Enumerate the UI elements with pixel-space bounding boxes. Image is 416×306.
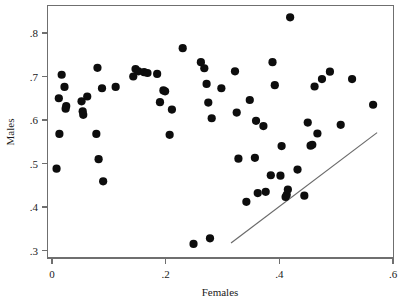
data-point	[278, 142, 286, 150]
data-point	[251, 154, 259, 162]
y-tick-label: .4	[30, 201, 39, 213]
data-point	[60, 83, 68, 91]
data-point	[284, 186, 292, 194]
data-point	[246, 96, 254, 104]
data-point	[369, 101, 377, 109]
data-point	[308, 141, 316, 149]
data-point	[156, 98, 164, 106]
data-point	[98, 84, 106, 92]
y-tick-label: .8	[30, 27, 39, 39]
data-point	[267, 171, 275, 179]
data-point	[271, 81, 279, 89]
x-tick-label: .6	[389, 268, 398, 280]
y-tick-label: .6	[30, 114, 39, 126]
data-point	[348, 75, 356, 83]
data-point	[189, 240, 197, 248]
data-point	[52, 165, 60, 173]
data-point	[262, 188, 270, 196]
data-point	[208, 114, 216, 122]
data-point	[300, 192, 308, 200]
data-points-layer	[52, 13, 377, 248]
data-point	[252, 117, 260, 125]
data-point	[202, 80, 210, 88]
data-point	[92, 130, 100, 138]
data-point	[95, 155, 103, 163]
x-tick-label: .2	[162, 268, 170, 280]
y-axis-tick-labels: .8 .7 .6 .5 .4 .3	[30, 27, 39, 257]
data-point	[231, 67, 239, 75]
x-axis-tick-labels: 0 .2 .4 .6	[49, 268, 397, 280]
data-point	[217, 84, 225, 92]
y-tick-label: .3	[30, 245, 39, 257]
data-point	[234, 155, 242, 163]
y-axis-title: Males	[4, 119, 16, 146]
data-point	[166, 131, 174, 139]
data-point	[259, 122, 267, 130]
data-point	[55, 130, 63, 138]
data-point	[313, 129, 321, 137]
data-point	[62, 102, 70, 110]
data-point	[153, 70, 161, 78]
data-point	[168, 105, 176, 113]
data-point	[310, 82, 318, 90]
data-point	[83, 92, 91, 100]
data-point	[304, 119, 312, 127]
data-point	[55, 94, 63, 102]
x-tick-label: .4	[275, 268, 284, 280]
data-point	[112, 83, 120, 91]
data-point	[143, 69, 151, 77]
data-point	[161, 87, 169, 95]
data-point	[200, 64, 208, 72]
plot-canvas: .8 .7 .6 .5 .4 .3 0 .2 .4 .6 Females Mal…	[0, 0, 416, 306]
y-tick-label: .7	[30, 71, 39, 83]
diagonal-reference-line	[231, 133, 377, 243]
data-point	[293, 165, 301, 173]
data-point	[276, 172, 284, 180]
data-point	[326, 68, 334, 76]
data-point	[268, 58, 276, 66]
y-tick-label: .5	[30, 158, 39, 170]
data-point	[233, 109, 241, 117]
data-point	[206, 234, 214, 242]
data-point	[254, 189, 262, 197]
x-tick-label: 0	[49, 268, 55, 280]
data-point	[286, 13, 294, 21]
data-point	[318, 75, 326, 83]
data-point	[79, 111, 87, 119]
x-axis-ticks	[52, 258, 393, 264]
data-point	[337, 121, 345, 129]
data-point	[204, 99, 212, 107]
y-axis-ticks	[42, 33, 48, 251]
data-point	[179, 44, 187, 52]
scatter-plot-figure: .8 .7 .6 .5 .4 .3 0 .2 .4 .6 Females Mal…	[0, 0, 416, 306]
data-point	[99, 177, 107, 185]
data-point	[93, 64, 101, 72]
x-axis-title: Females	[202, 286, 239, 298]
data-point	[242, 198, 250, 206]
data-point	[58, 71, 66, 79]
